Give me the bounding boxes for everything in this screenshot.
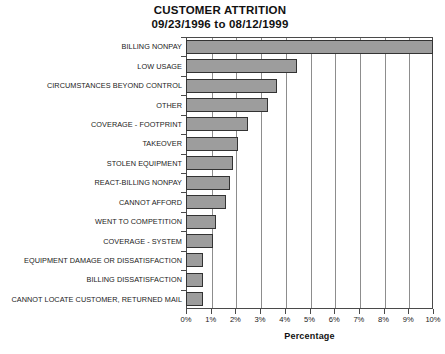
category-label: LOW USAGE [0, 62, 182, 71]
category-label: COVERAGE - FOOTPRINT [0, 120, 182, 129]
y-axis-tick [181, 173, 186, 174]
bar [186, 40, 433, 54]
y-axis-tick [181, 115, 186, 116]
y-axis-tick [181, 134, 186, 135]
x-axis-tick-label: 6% [321, 315, 347, 325]
x-axis-ticks [186, 309, 433, 314]
chart-title: CUSTOMER ATTRITION 09/23/1996 to 08/12/1… [0, 3, 440, 31]
bar-fill [186, 79, 277, 93]
bars-layer [186, 37, 433, 309]
bar [186, 215, 216, 229]
y-axis-tick [181, 76, 186, 77]
x-axis-labels: 0%1%2%3%4%5%6%7%8%9%10% [0, 315, 440, 327]
title-line-2: 09/23/1996 to 08/12/1999 [0, 17, 440, 31]
x-axis-tick [211, 309, 212, 314]
x-axis-tick [359, 309, 360, 314]
x-axis-tick [310, 309, 311, 314]
bar [186, 234, 213, 248]
bar [186, 79, 277, 93]
y-axis-tick [181, 270, 186, 271]
bar [186, 195, 226, 209]
category-label: WENT TO COMPETITION [0, 217, 182, 226]
bar [186, 98, 268, 112]
x-axis-tick [384, 309, 385, 314]
category-label: CANNOT LOCATE CUSTOMER, RETURNED MAIL [0, 295, 182, 304]
bar-fill [186, 98, 268, 112]
y-axis-tick [181, 290, 186, 291]
x-axis-tick [186, 309, 187, 314]
bar-fill [186, 117, 248, 131]
bar-fill [186, 59, 297, 73]
bar-fill [186, 176, 230, 190]
bar [186, 156, 233, 170]
x-axis-tick-label: 1% [198, 315, 224, 325]
x-axis-tick-label: 4% [272, 315, 298, 325]
x-axis-tick-label: 3% [247, 315, 273, 325]
x-axis-tick-label: 0% [173, 315, 199, 325]
category-label: BILLING NONPAY [0, 42, 182, 51]
category-label: TAKEOVER [0, 139, 182, 148]
bar-fill [186, 137, 238, 151]
y-axis-tick [181, 37, 186, 38]
bar [186, 117, 248, 131]
bar [186, 59, 297, 73]
bar-fill [186, 253, 203, 267]
y-axis-tick [181, 154, 186, 155]
x-axis-tick [285, 309, 286, 314]
category-label: CIRCUMSTANCES BEYOND CONTROL [0, 81, 182, 90]
bar-fill [186, 195, 226, 209]
x-axis-tick-label: 2% [222, 315, 248, 325]
category-label: COVERAGE - SYSTEM [0, 237, 182, 246]
category-label: OTHER [0, 101, 182, 110]
bar [186, 273, 203, 287]
x-axis-title: Percentage [186, 331, 433, 341]
y-axis-tick [181, 212, 186, 213]
title-line-1: CUSTOMER ATTRITION [0, 3, 440, 17]
bar-fill [186, 215, 216, 229]
x-axis-tick [235, 309, 236, 314]
y-axis-tick [181, 251, 186, 252]
bar [186, 137, 238, 151]
bar [186, 253, 203, 267]
category-label: EQUIPMENT DAMAGE OR DISSATISFACTION [0, 256, 182, 265]
x-axis-tick [433, 309, 434, 314]
bar-fill [186, 156, 233, 170]
y-axis-tick [181, 231, 186, 232]
y-axis-tick [181, 95, 186, 96]
x-axis-tick [260, 309, 261, 314]
x-axis-tick-label: 8% [371, 315, 397, 325]
x-axis-tick-label: 7% [346, 315, 372, 325]
bar-fill [186, 292, 203, 306]
x-axis-tick-label: 10% [420, 315, 445, 325]
x-axis-tick [334, 309, 335, 314]
x-axis-tick-label: 5% [297, 315, 323, 325]
category-label: CANNOT AFFORD [0, 198, 182, 207]
bar-fill [186, 234, 213, 248]
y-axis-tick [181, 56, 186, 57]
category-label: REACT-BILLING NONPAY [0, 178, 182, 187]
x-axis-tick [408, 309, 409, 314]
category-label: STOLEN EQUIPMENT [0, 159, 182, 168]
bar [186, 176, 230, 190]
bar-fill [186, 40, 433, 54]
bar-fill [186, 273, 203, 287]
category-label: BILLING DISSATISFACTION [0, 275, 182, 284]
x-axis-tick-label: 9% [395, 315, 421, 325]
y-axis-tick [181, 192, 186, 193]
bar [186, 292, 203, 306]
